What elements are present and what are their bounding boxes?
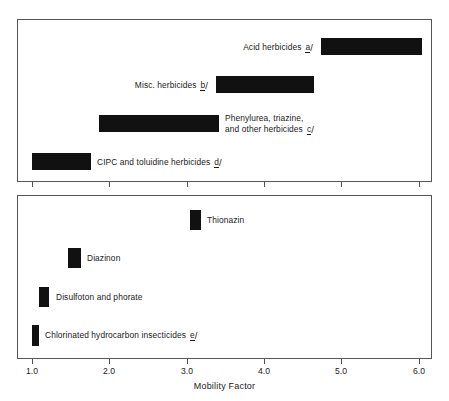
bar-label-thionazin: Thionazin bbox=[207, 215, 244, 226]
bar-label-line2: and other herbicides bbox=[225, 124, 303, 134]
bar-diazinon bbox=[68, 248, 81, 268]
axis-tick-bottom-5 bbox=[341, 358, 342, 364]
axis-tick-top-2 bbox=[109, 181, 110, 187]
bar-label-cipc-toluidine-herbicides: CIPC and toluidine herbicidesd/ bbox=[97, 157, 223, 168]
bar-label-text: Diazinon bbox=[87, 253, 120, 263]
bar-label-text: Disulfoton and phorate bbox=[56, 292, 142, 302]
bar-chlorinated-hydrocarbon-insecticides bbox=[32, 325, 39, 346]
bar-label-text: Chlorinated hydrocarbon insecticides bbox=[45, 330, 186, 340]
bar-label-diazinon: Diazinon bbox=[87, 253, 120, 264]
mobility-factor-figure: Acid herbicidesa/ Misc. herbicidesb/ Phe… bbox=[0, 0, 449, 401]
axis-tick-bottom-6 bbox=[419, 358, 420, 364]
axis-tick-label-2: 2.0 bbox=[103, 366, 115, 376]
axis-tick-top-5 bbox=[341, 181, 342, 187]
axis-tick-top-4 bbox=[264, 181, 265, 187]
bar-label-line1: Phenylurea, triazine, bbox=[225, 113, 303, 123]
axis-tick-bottom-3 bbox=[187, 358, 188, 364]
axis-tick-label-5: 5.0 bbox=[335, 366, 347, 376]
axis-tick-top-1 bbox=[32, 181, 33, 187]
insecticides-plot-area: Thionazin Diazinon Disulfoton and phorat… bbox=[18, 196, 431, 358]
axis-tick-label-6: 6.0 bbox=[413, 366, 425, 376]
bar-phenylurea-triazine-herbicides bbox=[99, 115, 219, 132]
bar-acid-herbicides bbox=[321, 38, 422, 55]
axis-tick-top-6 bbox=[419, 181, 420, 187]
bar-label-acid-herbicides: Acid herbicidesa/ bbox=[201, 42, 314, 53]
bar-thionazin bbox=[190, 210, 201, 230]
axis-tick-label-3: 3.0 bbox=[181, 366, 193, 376]
bar-label-text: Misc. herbicides bbox=[135, 80, 197, 90]
bar-label-text: CIPC and toluidine herbicides bbox=[97, 157, 210, 167]
axis-tick-label-4: 4.0 bbox=[258, 366, 270, 376]
footnote-marker-b: b/ bbox=[199, 80, 209, 91]
bar-misc-herbicides bbox=[216, 76, 314, 93]
bar-label-disulfoton-and-phorate: Disulfoton and phorate bbox=[56, 292, 142, 303]
herbicides-chart-panel: Acid herbicidesa/ Misc. herbicidesb/ Phe… bbox=[17, 19, 432, 182]
x-axis-title: Mobility Factor bbox=[0, 381, 449, 391]
axis-tick-bottom-4 bbox=[264, 358, 265, 364]
bar-label-misc-herbicides: Misc. herbicidesb/ bbox=[96, 80, 209, 91]
bar-label-phenylurea-triazine-herbicides: Phenylurea, triazine, and other herbicid… bbox=[225, 113, 315, 135]
footnote-marker-e: e/ bbox=[189, 330, 199, 341]
axis-tick-top-3 bbox=[187, 181, 188, 187]
bar-cipc-toluidine-herbicides bbox=[32, 153, 91, 170]
bar-label-text: Thionazin bbox=[207, 215, 244, 225]
bar-label-chlorinated-hydrocarbon-insecticides: Chlorinated hydrocarbon insecticidese/ bbox=[45, 330, 198, 341]
axis-tick-label-1: 1.0 bbox=[26, 366, 38, 376]
footnote-marker-a: a/ bbox=[304, 42, 314, 53]
bar-disulfoton-and-phorate bbox=[39, 287, 49, 307]
footnote-marker-d: d/ bbox=[213, 157, 223, 168]
bar-label-text: Acid herbicides bbox=[243, 42, 301, 52]
axis-tick-bottom-1 bbox=[32, 358, 33, 364]
herbicides-plot-area: Acid herbicidesa/ Misc. herbicidesb/ Phe… bbox=[18, 20, 431, 181]
insecticides-chart-panel: Thionazin Diazinon Disulfoton and phorat… bbox=[17, 195, 432, 359]
footnote-marker-c: c/ bbox=[306, 124, 315, 135]
axis-tick-bottom-2 bbox=[109, 358, 110, 364]
